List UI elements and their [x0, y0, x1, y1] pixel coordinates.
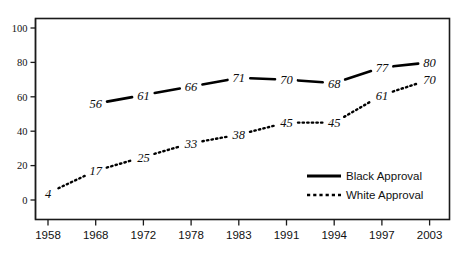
data-point-label: 77 — [376, 61, 389, 75]
data-point-label: 45 — [280, 116, 293, 130]
chart-canvas: 020406080100 195819681972197819831991199… — [0, 0, 474, 258]
x-tick-label: 1972 — [131, 229, 157, 241]
y-tick-label: 80 — [17, 57, 28, 68]
x-tick-label: 1994 — [321, 229, 347, 241]
legend-label: Black Approval — [346, 170, 422, 182]
data-point-label: 38 — [232, 128, 246, 142]
x-tick-label: 1978 — [178, 229, 204, 241]
x-tick-label: 1983 — [226, 229, 252, 241]
x-tick-label: 1958 — [35, 229, 61, 241]
y-tick-label: 0 — [22, 195, 27, 206]
y-tick-label: 20 — [17, 160, 28, 171]
legend-label: White Approval — [346, 189, 423, 201]
data-point-label: 71 — [233, 71, 246, 85]
data-point-label: 17 — [89, 164, 102, 178]
data-point-label: 45 — [328, 116, 341, 130]
line-chart: 020406080100 195819681972197819831991199… — [0, 0, 474, 258]
data-point-label: 70 — [280, 73, 293, 87]
y-tick-label: 100 — [12, 23, 28, 34]
x-tick-label: 1968 — [83, 229, 109, 241]
y-tick-label: 40 — [17, 126, 28, 137]
data-point-label: 25 — [137, 151, 150, 165]
series-segment — [250, 78, 275, 79]
x-tick-label: 1997 — [369, 229, 395, 241]
y-tick-label: 60 — [17, 92, 28, 103]
data-point-label: 66 — [185, 80, 198, 94]
data-point-label: 61 — [137, 89, 150, 103]
data-point-label: 56 — [89, 97, 102, 111]
data-point-label: 4 — [45, 187, 51, 201]
data-point-label: 33 — [184, 137, 198, 151]
data-point-label: 70 — [423, 73, 436, 87]
series-segment — [298, 80, 323, 82]
x-axis-labels: 195819681972197819831991199419972003 — [35, 229, 442, 241]
x-tick-label: 2003 — [417, 229, 443, 241]
x-tick-label: 1991 — [274, 229, 300, 241]
data-point-label: 80 — [423, 56, 436, 70]
data-point-label: 68 — [328, 77, 341, 91]
data-point-label: 61 — [376, 89, 389, 103]
